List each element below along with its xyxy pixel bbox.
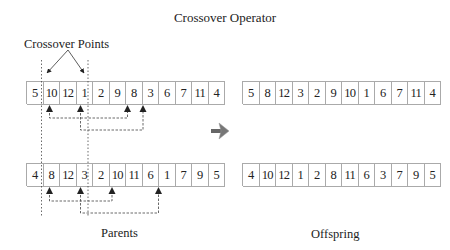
diagram-lines [0,0,450,250]
right-arrow-icon [211,123,229,139]
up-arrow-icons [46,187,162,194]
parent-1-swap-arrows [50,109,144,130]
up-arrow-icons [46,105,147,112]
offspring-label: Offspring [311,227,359,242]
parent-2-swap-arrows [50,191,159,213]
parents-label: Parents [101,226,138,241]
crossover-label-arrows [47,50,84,73]
